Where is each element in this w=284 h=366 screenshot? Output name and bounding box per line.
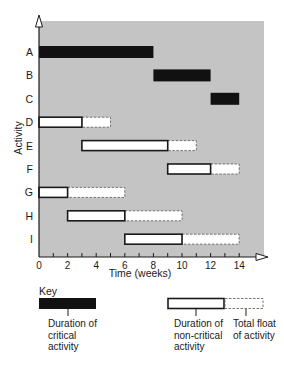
- activity-bar-b: [153, 69, 210, 81]
- x-tick-label: 4: [93, 260, 99, 271]
- float-bar: [68, 187, 125, 197]
- legend-float-swatch: [225, 299, 263, 317]
- activity-bar-d: [39, 117, 111, 127]
- legend-float-label: Total float of activity: [233, 318, 276, 341]
- float-bar: [211, 164, 240, 174]
- float-bar: [82, 117, 111, 127]
- noncritical-duration-bar: [39, 187, 68, 197]
- legend-float-line: of activity: [233, 330, 276, 342]
- x-axis-title: Time (weeks): [109, 267, 172, 279]
- y-tick-label: I: [30, 233, 33, 245]
- noncritical-duration-bar: [39, 117, 82, 127]
- legend-noncritical-line: Duration of: [174, 318, 223, 330]
- legend-critical-line: critical: [48, 330, 97, 342]
- float-bar: [125, 211, 182, 221]
- y-tick-label: C: [25, 93, 33, 105]
- activity-bar-e: [82, 141, 196, 151]
- legend-critical-line: activity: [48, 341, 97, 353]
- activity-bar-c: [211, 93, 240, 105]
- legend-critical-label: Duration of critical activity: [48, 318, 97, 353]
- x-tick-label: 0: [36, 260, 42, 271]
- x-tick-label: 12: [205, 260, 217, 271]
- legend-critical-swatch: [39, 298, 96, 316]
- activity-bar-i: [125, 234, 239, 244]
- x-tick-label: 2: [65, 260, 71, 271]
- y-tick-label: H: [25, 210, 33, 222]
- y-tick-label: D: [25, 116, 33, 128]
- float-bar: [182, 234, 239, 244]
- x-tick-label: 10: [176, 260, 188, 271]
- noncritical-duration-bar: [68, 211, 125, 221]
- critical-duration-bar: [39, 46, 153, 58]
- y-axis-labels: ABCDEFGHI: [25, 46, 34, 245]
- noncritical-duration-bar: [125, 234, 182, 244]
- legend-title: Key: [39, 285, 57, 297]
- activity-bar-g: [39, 187, 125, 197]
- legend-critical-line: Duration of: [48, 318, 97, 330]
- y-axis-title: Activity: [12, 121, 24, 155]
- gantt-chart: ABCDEFGHI 02468101214 Time (weeks) Activ…: [0, 0, 284, 366]
- y-tick-label: E: [26, 140, 33, 152]
- legend-noncritical-swatch: [168, 299, 224, 317]
- legend-noncritical-line: non-critical: [174, 330, 223, 342]
- legend-float-line: Total float: [233, 318, 276, 330]
- y-tick-label: G: [25, 186, 33, 198]
- y-tick-label: A: [26, 46, 33, 58]
- activity-bar-h: [68, 211, 182, 221]
- legend-noncritical-label: Duration of non-critical activity: [174, 318, 223, 353]
- noncritical-duration-bar: [82, 141, 168, 151]
- activity-bar-f: [168, 164, 240, 174]
- y-tick-label: B: [26, 69, 33, 81]
- activity-bar-a: [39, 46, 153, 58]
- y-tick-label: F: [27, 163, 33, 175]
- noncritical-duration-bar: [168, 164, 211, 174]
- legend-noncritical-line: activity: [174, 341, 223, 353]
- critical-duration-bar: [211, 93, 240, 105]
- float-bar: [168, 141, 197, 151]
- critical-duration-bar: [153, 69, 210, 81]
- x-tick-label: 14: [234, 260, 246, 271]
